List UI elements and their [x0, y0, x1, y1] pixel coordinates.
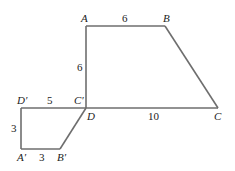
edge-cpbp	[60, 108, 86, 149]
vertex-label-d: D	[86, 110, 95, 122]
vertex-label-a-prime: A′	[16, 151, 27, 163]
length-label-dpcp: 5	[47, 94, 53, 106]
length-label-dc: 10	[148, 110, 160, 122]
quadrilateral-apbpcpdp	[21, 108, 86, 149]
vertex-label-d-prime: D′	[16, 94, 28, 106]
vertex-label-b: B	[163, 12, 170, 24]
vertex-label-c-prime: C′	[74, 94, 84, 106]
edge-bc	[165, 26, 218, 108]
geometry-diagram: A B C D D′ C′ A′ B′ 6 6 10 5 3 3	[0, 0, 235, 171]
length-label-apbp: 3	[39, 151, 45, 163]
vertex-label-b-prime: B′	[57, 151, 67, 163]
vertex-label-c: C	[214, 110, 222, 122]
length-label-ad: 6	[77, 61, 83, 73]
length-label-ab: 6	[122, 12, 128, 24]
trapezoid-abcd	[86, 26, 218, 108]
vertex-label-a: A	[80, 12, 88, 24]
length-label-dpap: 3	[11, 122, 17, 134]
